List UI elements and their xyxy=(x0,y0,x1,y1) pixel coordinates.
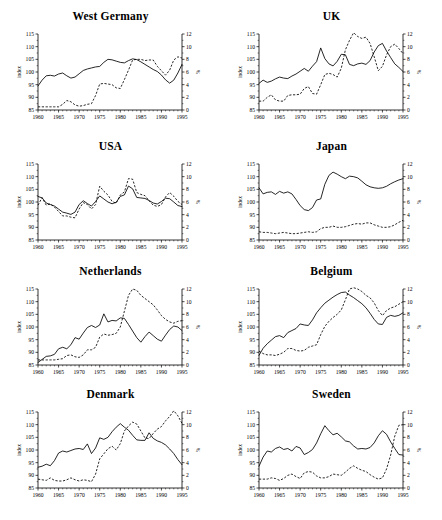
ytick-left: 110 xyxy=(26,299,34,305)
plot-area: 8590951001051101150246810121960196519701… xyxy=(0,404,221,518)
xtick: 1995 xyxy=(397,244,408,250)
panel-title: Netherlands xyxy=(0,265,221,277)
ytick-left: 90 xyxy=(249,94,255,100)
panel-japan: Japan85909510010511011502468101219601965… xyxy=(221,140,442,270)
ytick-right: 6 xyxy=(407,324,410,330)
ytick-right: 2 xyxy=(407,349,410,355)
ytick-left: 95 xyxy=(249,212,255,218)
ytick-left: 95 xyxy=(28,212,34,218)
ytick-left: 115 xyxy=(26,31,34,37)
ytick-right: 12 xyxy=(186,409,192,415)
xtick: 1990 xyxy=(156,492,167,498)
y-axis-label-left: index xyxy=(237,321,243,333)
ytick-left: 85 xyxy=(28,362,34,368)
xtick: 1970 xyxy=(295,369,306,375)
xtick: 1975 xyxy=(94,369,105,375)
ytick-left: 115 xyxy=(247,161,255,167)
series-line-unemployment xyxy=(38,179,182,218)
xtick: 1980 xyxy=(115,114,126,120)
ytick-right: 12 xyxy=(407,161,413,167)
ytick-right: 8 xyxy=(407,434,410,440)
ytick-right: 2 xyxy=(186,472,189,478)
xtick: 1990 xyxy=(377,369,388,375)
ytick-left: 105 xyxy=(247,434,256,440)
ytick-left: 100 xyxy=(247,447,256,453)
y-axis-label-right: % xyxy=(195,69,201,74)
xtick: 1975 xyxy=(315,244,326,250)
xtick: 1980 xyxy=(115,244,126,250)
ytick-right: 0 xyxy=(407,107,410,113)
ytick-right: 6 xyxy=(186,447,189,453)
xtick: 1980 xyxy=(336,492,347,498)
ytick-right: 12 xyxy=(407,409,413,415)
ytick-left: 115 xyxy=(26,161,34,167)
ytick-left: 110 xyxy=(247,299,255,305)
ytick-left: 85 xyxy=(249,107,255,113)
ytick-left: 90 xyxy=(249,349,255,355)
xtick: 1960 xyxy=(253,244,264,250)
panel-west-germany: West Germany8590951001051101150246810121… xyxy=(0,10,221,140)
ytick-left: 110 xyxy=(26,174,34,180)
panel-title: UK xyxy=(221,10,442,22)
ytick-left: 90 xyxy=(28,224,34,230)
ytick-right: 6 xyxy=(186,69,189,75)
ytick-right: 2 xyxy=(186,224,189,230)
xtick: 1975 xyxy=(94,492,105,498)
xtick: 1975 xyxy=(315,492,326,498)
xtick: 1960 xyxy=(253,492,264,498)
panel-title: Belgium xyxy=(221,265,442,277)
panel-title: Sweden xyxy=(221,388,442,400)
ytick-left: 110 xyxy=(26,422,34,428)
xtick: 1995 xyxy=(176,492,187,498)
ytick-right: 8 xyxy=(186,56,189,62)
panel-belgium: Belgium859095100105110115024681012196019… xyxy=(221,265,442,395)
ytick-left: 90 xyxy=(249,472,255,478)
ytick-right: 10 xyxy=(407,299,413,305)
xtick: 1970 xyxy=(74,114,85,120)
xtick: 1990 xyxy=(377,244,388,250)
series-line-unemployment xyxy=(38,289,182,360)
ytick-right: 0 xyxy=(186,362,189,368)
xtick: 1985 xyxy=(135,369,146,375)
xtick: 1995 xyxy=(397,492,408,498)
ytick-left: 85 xyxy=(249,237,255,243)
plot-area: 8590951001051101150246810121960196519701… xyxy=(0,26,221,140)
series-line-index xyxy=(259,43,403,83)
ytick-right: 0 xyxy=(407,237,410,243)
ytick-left: 115 xyxy=(247,286,255,292)
y-axis-label-left: index xyxy=(16,321,22,333)
xtick: 1960 xyxy=(32,244,43,250)
xtick: 1995 xyxy=(176,244,187,250)
ytick-left: 100 xyxy=(247,324,256,330)
ytick-left: 95 xyxy=(249,337,255,343)
xtick: 1970 xyxy=(74,244,85,250)
ytick-right: 2 xyxy=(407,472,410,478)
ytick-right: 12 xyxy=(186,161,192,167)
ytick-left: 90 xyxy=(28,94,34,100)
panel-title: Japan xyxy=(221,140,442,152)
ytick-left: 105 xyxy=(26,311,35,317)
ytick-right: 8 xyxy=(186,186,189,192)
ytick-right: 10 xyxy=(186,299,192,305)
xtick: 1965 xyxy=(274,114,285,120)
xtick: 1985 xyxy=(356,244,367,250)
ytick-right: 4 xyxy=(186,337,189,343)
ytick-left: 105 xyxy=(26,56,35,62)
ytick-right: 0 xyxy=(186,237,189,243)
series-line-unemployment xyxy=(38,57,182,107)
xtick: 1980 xyxy=(115,369,126,375)
ytick-right: 10 xyxy=(186,422,192,428)
ytick-right: 0 xyxy=(186,107,189,113)
xtick: 1975 xyxy=(315,114,326,120)
ytick-left: 110 xyxy=(247,44,255,50)
series-line-index xyxy=(38,59,182,86)
panel-netherlands: Netherlands85909510010511011502468101219… xyxy=(0,265,221,395)
xtick: 1990 xyxy=(156,114,167,120)
ytick-right: 8 xyxy=(407,186,410,192)
xtick: 1995 xyxy=(176,114,187,120)
xtick: 1970 xyxy=(295,114,306,120)
xtick: 1980 xyxy=(336,244,347,250)
series-line-unemployment xyxy=(38,411,182,482)
ytick-right: 8 xyxy=(407,311,410,317)
ytick-left: 100 xyxy=(247,69,256,75)
